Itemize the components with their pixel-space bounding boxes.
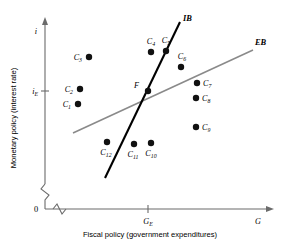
- y-axis-caption: Monetary policy (interest rate): [9, 67, 18, 168]
- point-label-c6: C6: [178, 52, 186, 62]
- intersection-point-f: [145, 88, 151, 94]
- data-point: [163, 48, 169, 54]
- eb-line: [73, 50, 253, 133]
- point-label-c7: C7: [203, 79, 212, 89]
- x-axis: [45, 204, 274, 214]
- point-label-c1: C1: [63, 100, 71, 110]
- data-point: [194, 80, 200, 86]
- point-label-c8: C8: [202, 94, 210, 104]
- point-label-c10: C10: [145, 149, 156, 159]
- y-tick-label-ie: iE: [32, 87, 38, 97]
- x-tick-label-ge: GE: [143, 217, 153, 227]
- data-point: [104, 139, 110, 145]
- data-point: [131, 141, 137, 147]
- data-point: [148, 140, 154, 146]
- data-point: [193, 95, 199, 101]
- intersection-label-f: F: [133, 81, 140, 90]
- point-label-c4: C4: [147, 37, 155, 47]
- data-point: [178, 64, 184, 70]
- data-point: [77, 86, 83, 92]
- point-label-c5: C5: [162, 36, 170, 46]
- y-axis: [41, 17, 49, 209]
- y-axis-break-icon: [41, 184, 49, 209]
- x-axis-symbol: G: [255, 217, 261, 226]
- point-label-c2: C2: [65, 85, 73, 95]
- point-label-c12: C12: [100, 148, 111, 158]
- point-label-c11: C11: [128, 150, 139, 160]
- economic-policy-scatter-chart: C1 C2 C3 C4 C5 C6 C7 C8 C9 C10: [0, 0, 283, 242]
- ib-line-label: IB: [182, 14, 192, 23]
- x-axis-arrow: [266, 206, 274, 212]
- point-label-c3: C3: [74, 53, 82, 63]
- data-point: [193, 124, 199, 130]
- data-point: [148, 49, 154, 55]
- data-point: [86, 54, 92, 60]
- x-axis-caption: Fiscal policy (government expenditures): [83, 230, 218, 239]
- point-label-c9: C9: [202, 123, 210, 133]
- data-point: [75, 101, 81, 107]
- y-axis-symbol: i: [35, 27, 38, 36]
- origin-label: 0: [34, 205, 38, 214]
- y-axis-arrow: [42, 17, 48, 25]
- eb-line-label: EB: [254, 38, 267, 47]
